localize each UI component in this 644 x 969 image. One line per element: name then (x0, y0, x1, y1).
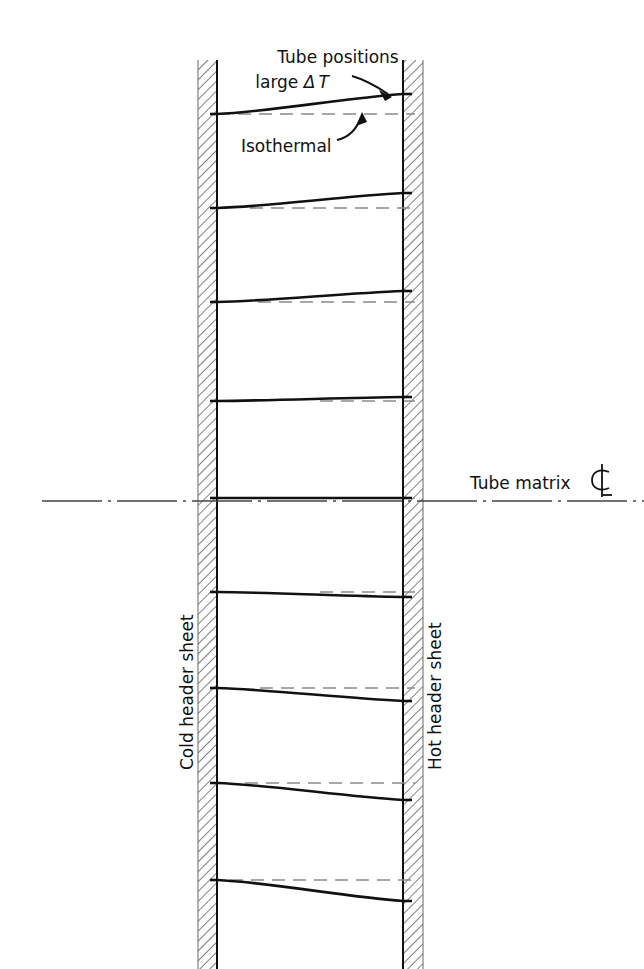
tube-matrix-diagram: Tube positions large ΔT Isothermal Tube … (0, 0, 644, 969)
temperature-symbol: T (318, 72, 330, 92)
isothermal-label: Isothermal (241, 136, 332, 156)
cold-header-sheet (198, 60, 217, 969)
delta-symbol: Δ (302, 72, 316, 92)
tube-positions-label-line1: Tube positions (276, 47, 399, 67)
tube-matrix-label: Tube matrix (469, 473, 571, 493)
hot-header-sheet-label: Hot header sheet (425, 622, 445, 770)
tube-positions-label-line2: large ΔT (228, 72, 345, 92)
large-text: large (255, 72, 304, 92)
diagram-canvas: Tube positions large ΔT Isothermal Tube … (0, 0, 644, 969)
hot-header-sheet (403, 60, 423, 969)
cold-header-sheet-label: Cold header sheet (177, 614, 197, 770)
